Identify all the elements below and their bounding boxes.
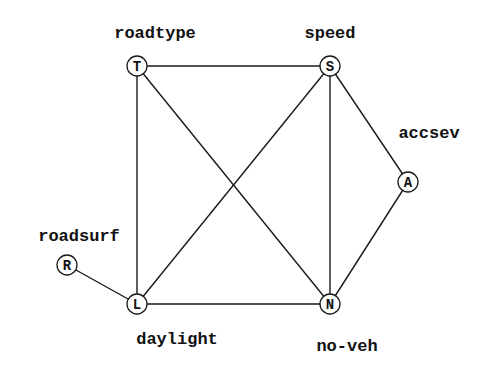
node-letter: L (133, 297, 141, 313)
node-label-speed: speed (304, 24, 355, 43)
node-speed: S (320, 56, 340, 76)
graph-diagram: TSARLN roadtypespeedaccsevroadsurfdaylig… (0, 0, 494, 369)
node-label-daylight: daylight (136, 330, 218, 349)
node-letter: N (326, 297, 334, 313)
node-label-roadsurf: roadsurf (38, 227, 120, 246)
node-label-roadtype: roadtype (114, 24, 196, 43)
node-daylight: L (127, 294, 147, 314)
node-accsev: A (398, 172, 418, 192)
node-letter: R (63, 258, 72, 274)
graph-edges (67, 66, 408, 304)
edge-a-n (330, 182, 408, 304)
node-letter: S (326, 59, 334, 75)
graph-nodes: TSARLN (57, 56, 418, 314)
node-label-no-veh: no-veh (316, 337, 377, 356)
node-label-accsev: accsev (398, 124, 459, 143)
node-letter: A (404, 175, 413, 191)
edge-s-a (330, 66, 408, 182)
edge-r-l (67, 265, 137, 304)
node-roadsurf: R (57, 255, 77, 275)
graph-labels: roadtypespeedaccsevroadsurfdaylightno-ve… (38, 24, 459, 356)
node-letter: T (133, 59, 141, 75)
node-no-veh: N (320, 294, 340, 314)
node-roadtype: T (127, 56, 147, 76)
